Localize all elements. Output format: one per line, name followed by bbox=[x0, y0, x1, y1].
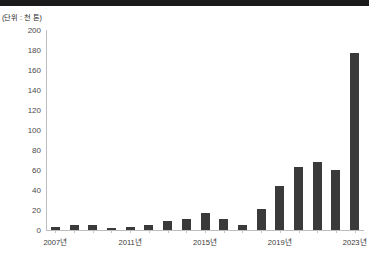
top-divider-rule bbox=[0, 0, 369, 6]
y-axis-tick-label: 140 bbox=[28, 86, 41, 95]
x-axis-tick-label: 2007년 bbox=[43, 236, 67, 247]
y-axis-tick-label: 160 bbox=[28, 66, 41, 75]
bar-series bbox=[46, 30, 364, 230]
x-axis-tick-mark bbox=[55, 230, 56, 233]
bar bbox=[163, 221, 172, 230]
y-axis-tick-label: 100 bbox=[28, 126, 41, 135]
x-axis-tick-mark bbox=[280, 230, 281, 233]
y-axis-tick-label: 180 bbox=[28, 46, 41, 55]
x-axis-tick-mark bbox=[205, 230, 206, 233]
chart-page: (단위 : 천 톤) 020406080100120140160180200 2… bbox=[0, 0, 369, 256]
bar bbox=[219, 219, 228, 230]
x-axis-tick-mark bbox=[336, 230, 337, 233]
y-axis-tick-label: 80 bbox=[32, 146, 41, 155]
bar bbox=[331, 170, 340, 230]
bar bbox=[201, 213, 210, 230]
x-axis-tick-mark bbox=[111, 230, 112, 233]
x-axis-tick-mark bbox=[186, 230, 187, 233]
x-axis-tick-mark bbox=[355, 230, 356, 233]
y-axis-tick-label: 60 bbox=[32, 166, 41, 175]
x-axis-tick-label: 2011년 bbox=[119, 236, 142, 247]
bar bbox=[275, 186, 284, 230]
x-axis-tick-mark bbox=[130, 230, 131, 233]
unit-label: (단위 : 천 톤) bbox=[2, 12, 42, 22]
y-axis-tick-label: 40 bbox=[32, 186, 41, 195]
bar bbox=[294, 167, 303, 230]
x-axis-tick-mark bbox=[299, 230, 300, 233]
x-axis-tick-mark bbox=[149, 230, 150, 233]
x-axis-tick-mark bbox=[168, 230, 169, 233]
x-axis-tick-label: 2015년 bbox=[193, 236, 217, 247]
bar bbox=[182, 219, 191, 230]
x-axis-tick-label: 2023년 bbox=[343, 236, 367, 247]
x-axis-tick-label: 2019년 bbox=[268, 236, 292, 247]
x-axis-tick-mark bbox=[93, 230, 94, 233]
y-axis-tick-label: 120 bbox=[28, 106, 41, 115]
bar bbox=[257, 209, 266, 230]
bar bbox=[313, 162, 322, 230]
y-axis-tick-label: 200 bbox=[28, 26, 41, 35]
y-axis-tick-label: 0 bbox=[37, 226, 41, 235]
y-axis-tick-label: 20 bbox=[32, 206, 41, 215]
x-axis-tick-mark bbox=[261, 230, 262, 233]
plot-area: 020406080100120140160180200 bbox=[46, 30, 364, 230]
bar bbox=[350, 53, 359, 230]
x-axis-tick-mark bbox=[242, 230, 243, 233]
x-axis-tick-mark bbox=[224, 230, 225, 233]
x-axis-tick-mark bbox=[317, 230, 318, 233]
x-axis-tick-mark bbox=[74, 230, 75, 233]
